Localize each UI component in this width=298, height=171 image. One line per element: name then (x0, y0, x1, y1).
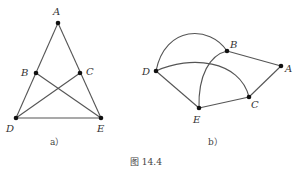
label-b-D: D (142, 67, 150, 77)
edge-b-ed (156, 71, 199, 108)
vertex-a-B (34, 71, 39, 76)
vertex-a-A (56, 21, 61, 26)
label-a-D: D (6, 124, 14, 134)
arc-b-eb (199, 51, 227, 108)
label-a-B: B (21, 68, 28, 78)
label-b-E: E (193, 115, 200, 125)
vertex-a-E (99, 116, 104, 121)
edge-b-ba (227, 51, 281, 66)
label-b-C: C (251, 100, 259, 110)
figure-caption: 图 14.4 (130, 158, 162, 167)
label-b-B: B (230, 40, 237, 50)
subfigure-b-label: b） (208, 138, 223, 147)
vertex-a-C (78, 71, 83, 76)
label-a-E: E (97, 124, 104, 134)
edge-b-ac (249, 66, 281, 97)
figure-14-4: A B C D E a） A B C D E b） 图 14.4 (0, 0, 298, 171)
vertex-b-E (197, 106, 202, 111)
diagram-canvas (0, 0, 298, 171)
subfigure-b-graph (154, 33, 284, 110)
edge-b-ce (199, 97, 249, 108)
vertex-a-D (14, 116, 19, 121)
label-a-C: C (86, 67, 94, 77)
subfigure-a-label: a） (50, 138, 64, 147)
vertex-b-A (279, 64, 284, 69)
vertex-b-D (154, 69, 159, 74)
vertex-b-B (225, 49, 230, 54)
label-a-A: A (53, 7, 60, 17)
label-b-A: A (285, 64, 292, 74)
